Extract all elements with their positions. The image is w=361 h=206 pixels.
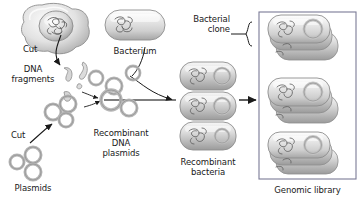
label-recombinant-plasmids-line2: DNA [73, 138, 169, 148]
label-recombinant-plasmids-line1: Recombinant [73, 128, 169, 138]
label-bacterial-clone-line2: clone [178, 24, 230, 34]
label-plasmids: Plasmids [2, 183, 64, 193]
recombinant-bacterium [180, 62, 236, 150]
label-recombinant-plasmids-line3: plasmids [73, 148, 169, 158]
genomic-library-diagram: Cut DNA fragments Bacterium Cut Plasmids… [0, 0, 361, 206]
label-recombinant-bacteria-line2: bacteria [161, 167, 255, 177]
label-dna-fragments-line2: fragments [4, 74, 62, 84]
label-cut-plasmid: Cut [11, 130, 25, 140]
cut-plasmid-rings [45, 96, 76, 127]
label-dna-fragments-line1: DNA [4, 64, 62, 74]
bacterium-rod-cell [105, 10, 165, 40]
label-recombinant-bacteria-line1: Recombinant [161, 157, 255, 167]
label-bacterial-clone-line1: Bacterial [178, 14, 230, 24]
label-genomic-library: Genomic library [254, 185, 361, 195]
label-bacterium: Bacterium [104, 46, 166, 56]
bacterial-clone-cluster [268, 15, 338, 174]
plasmid-rings [10, 147, 41, 180]
recombinant-plasmid-rings [89, 66, 140, 116]
label-cut-nucleus: Cut [23, 44, 37, 54]
